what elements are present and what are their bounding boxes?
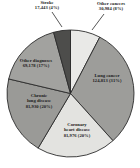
leader-line-other-cancers xyxy=(92,14,104,30)
pie-chart-canvas xyxy=(0,0,140,168)
slice-label-stroke: Stroke 17,443 (4%) xyxy=(24,0,70,11)
leader-line-stroke xyxy=(52,12,62,27)
other-diagnoses-label-value: 69,178 (17%) xyxy=(6,63,66,68)
slice-label-other-diagnoses: Other diagnoses 69,178 (17%) xyxy=(6,58,66,69)
slice-label-coronary-heart-disease: Coronary heart disease 81,976 (20%) xyxy=(46,122,108,138)
lung-cancer-label-value: 124,813 (31%) xyxy=(78,78,136,83)
chronic-label-value: 81,930 (20%) xyxy=(12,104,66,109)
slice-label-other-cancers: Other cancers 30,984 (8%) xyxy=(86,1,136,12)
pie-chart: Stroke 17,443 (4%) Other cancers 30,984 … xyxy=(0,0,140,168)
other-cancers-label-value: 30,984 (8%) xyxy=(86,6,136,11)
stroke-label-value: 17,443 (4%) xyxy=(24,5,70,10)
coronary-label-value: 81,976 (20%) xyxy=(46,133,108,138)
leader-lines-group xyxy=(52,12,104,30)
slice-label-lung-cancer: Lung cancer 124,813 (31%) xyxy=(78,73,136,84)
slice-label-chronic-lung-disease: Chronic lung disease 81,930 (20%) xyxy=(12,93,66,109)
